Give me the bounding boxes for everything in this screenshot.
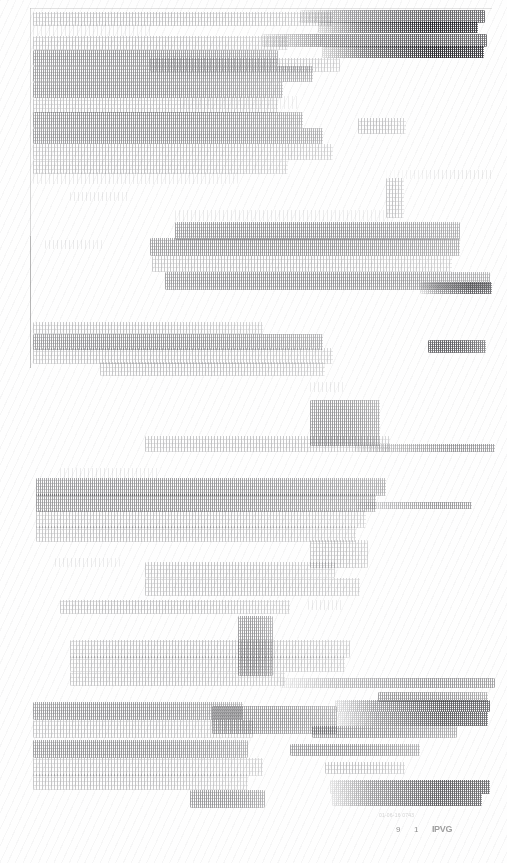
text-block bbox=[332, 794, 482, 806]
footer-note: 01-06-16 0743 bbox=[379, 812, 414, 818]
text-block bbox=[308, 600, 344, 610]
text-block bbox=[330, 780, 490, 794]
text-block bbox=[33, 36, 288, 50]
page-top-rule bbox=[30, 8, 492, 9]
text-block bbox=[335, 700, 490, 712]
footer-stamp-text: IPVG bbox=[432, 824, 452, 834]
footer-stamp: 9 1 IPVG bbox=[396, 824, 452, 834]
text-block bbox=[145, 436, 390, 452]
text-block bbox=[356, 502, 472, 509]
text-block bbox=[152, 256, 452, 272]
text-block bbox=[33, 112, 303, 128]
text-block bbox=[70, 656, 345, 672]
text-block bbox=[60, 600, 290, 614]
text-block bbox=[180, 96, 300, 109]
text-block bbox=[420, 282, 492, 294]
text-block bbox=[175, 210, 390, 221]
text-block bbox=[280, 678, 495, 688]
footer-glyph-2: 1 bbox=[414, 825, 419, 834]
text-block bbox=[45, 240, 105, 249]
text-block bbox=[33, 774, 248, 790]
page-left-rule-lower bbox=[30, 236, 31, 368]
text-block bbox=[33, 66, 313, 82]
text-block bbox=[33, 24, 153, 36]
text-block bbox=[310, 382, 346, 392]
text-block bbox=[70, 192, 130, 201]
text-block bbox=[33, 720, 253, 738]
text-block bbox=[55, 558, 120, 567]
text-block bbox=[33, 128, 323, 144]
text-block bbox=[358, 118, 406, 134]
text-block bbox=[190, 790, 265, 808]
text-block bbox=[318, 22, 478, 33]
text-block bbox=[36, 526, 356, 542]
text-block bbox=[33, 322, 263, 334]
text-block bbox=[33, 172, 238, 184]
scanned-page: 01-06-16 0743 9 1 IPVG bbox=[0, 0, 507, 863]
text-block bbox=[322, 46, 484, 58]
text-block bbox=[33, 144, 333, 160]
text-block bbox=[33, 740, 248, 758]
text-block bbox=[355, 444, 495, 452]
text-block bbox=[312, 726, 457, 738]
footer-glyph-1: 9 bbox=[396, 825, 401, 834]
text-block bbox=[145, 578, 360, 596]
text-block bbox=[150, 238, 460, 256]
text-block bbox=[70, 672, 285, 686]
text-block bbox=[325, 762, 405, 774]
text-block bbox=[428, 340, 486, 353]
text-block bbox=[100, 362, 325, 376]
text-block bbox=[338, 712, 488, 726]
text-block bbox=[145, 562, 335, 578]
text-block bbox=[60, 468, 160, 478]
text-block bbox=[290, 744, 420, 756]
